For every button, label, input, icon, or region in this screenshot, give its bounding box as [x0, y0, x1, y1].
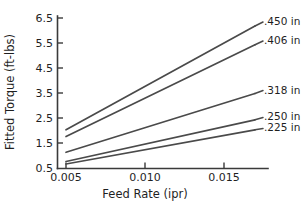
- x-tick-label-0.010: 0.010: [129, 171, 161, 184]
- y-tick-label-6.5: 6.5: [36, 12, 54, 25]
- series-label-450: .450 in: [264, 15, 300, 27]
- x-tick-label-0.005: 0.005: [50, 171, 82, 184]
- y-tick-label-3.5: 3.5: [36, 87, 54, 100]
- series-label-225: .225 in: [264, 121, 300, 133]
- series-label-406: .406 in: [264, 34, 300, 46]
- chart-figure: 6.5 5.5 4.5 3.5 2.5 1.5 0.5 0.005 0.010 …: [0, 0, 304, 207]
- x-axis-title: Feed Rate (ipr): [102, 187, 187, 201]
- y-tick-label-1.5: 1.5: [36, 137, 54, 150]
- y-tick-label-5.5: 5.5: [36, 37, 54, 50]
- y-tick-label-4.5: 4.5: [36, 62, 54, 75]
- y-axis-title: Fitted Torque (ft-lbs): [3, 34, 17, 150]
- series-label-318: .318 in: [264, 84, 300, 96]
- x-tick-label-0.015: 0.015: [208, 171, 240, 184]
- line-chart: 6.5 5.5 4.5 3.5 2.5 1.5 0.5 0.005 0.010 …: [0, 0, 304, 207]
- y-tick-label-2.5: 2.5: [36, 112, 54, 125]
